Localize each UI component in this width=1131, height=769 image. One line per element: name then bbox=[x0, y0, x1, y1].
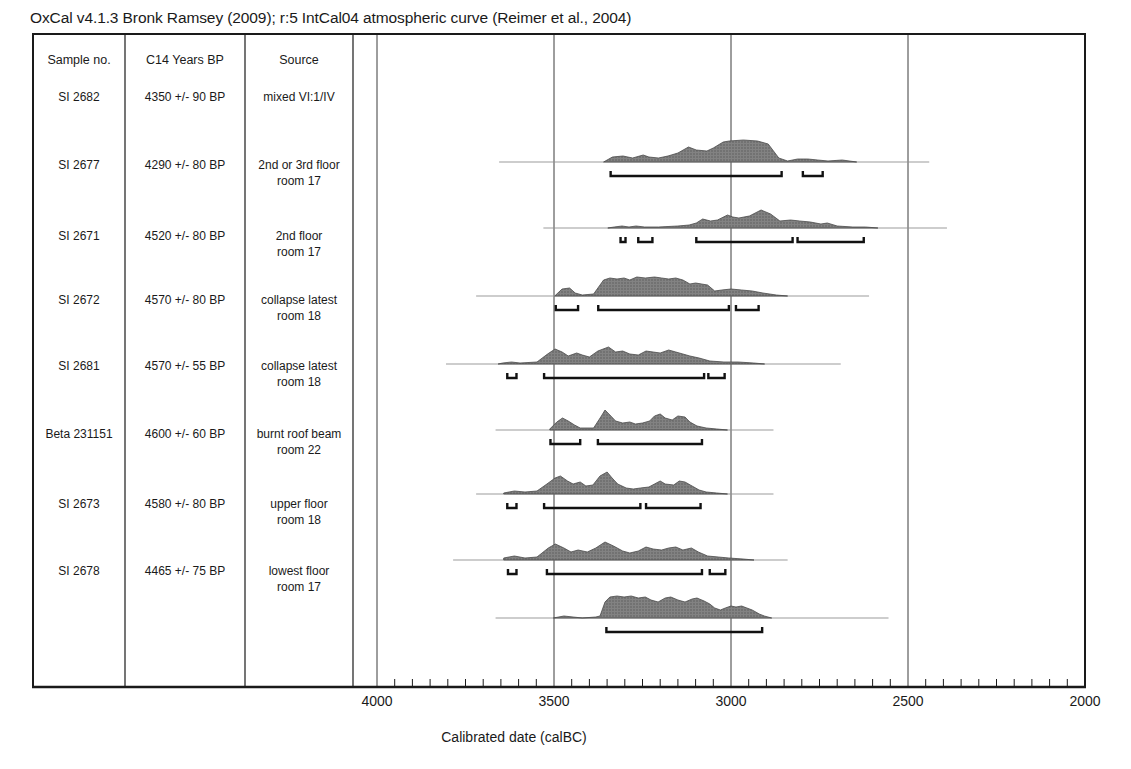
sample-label: Beta 231151 bbox=[45, 427, 112, 442]
source-label: room 17 bbox=[277, 580, 321, 595]
probability-distribution bbox=[504, 472, 728, 494]
range-bracket bbox=[507, 373, 516, 378]
range-bracket bbox=[606, 627, 762, 632]
table-header-sample: Sample no. bbox=[47, 53, 110, 67]
x-tick-label: 3000 bbox=[715, 693, 746, 709]
c14-label: 4290 +/- 80 BP bbox=[145, 158, 225, 173]
sample-label: SI 2682 bbox=[58, 90, 99, 105]
range-bracket bbox=[556, 305, 578, 310]
x-tick-label: 3500 bbox=[538, 693, 569, 709]
source-label: burnt roof beam bbox=[257, 427, 342, 442]
range-bracket bbox=[646, 503, 701, 508]
c14-label: 4520 +/- 80 BP bbox=[145, 229, 225, 244]
range-bracket bbox=[598, 305, 729, 310]
probability-distribution bbox=[504, 542, 754, 560]
range-bracket bbox=[708, 373, 724, 378]
probability-distribution bbox=[604, 140, 857, 162]
c14-label: 4465 +/- 75 BP bbox=[145, 564, 225, 579]
range-bracket bbox=[803, 171, 823, 176]
range-bracket bbox=[547, 569, 702, 574]
source-label: room 22 bbox=[277, 443, 321, 458]
c14-label: 4570 +/- 80 BP bbox=[145, 293, 225, 308]
source-label: collapse latest bbox=[261, 293, 337, 308]
probability-distribution bbox=[555, 277, 788, 296]
x-axis-title: Calibrated date (calBC) bbox=[441, 729, 587, 745]
c14-label: 4600 +/- 60 BP bbox=[145, 427, 225, 442]
sample-label: SI 2671 bbox=[58, 229, 99, 244]
source-label: mixed VI:1/IV bbox=[263, 90, 334, 105]
sample-label: SI 2672 bbox=[58, 293, 99, 308]
x-tick-label: 2000 bbox=[1069, 693, 1100, 709]
x-tick-label: 2500 bbox=[892, 693, 923, 709]
range-bracket bbox=[544, 503, 640, 508]
range-bracket bbox=[710, 569, 726, 574]
sample-label: SI 2677 bbox=[58, 158, 99, 173]
sample-label: SI 2681 bbox=[58, 359, 99, 374]
oxcal-figure: OxCal v4.1.3 Bronk Ramsey (2009); r:5 In… bbox=[0, 0, 1131, 769]
range-bracket bbox=[507, 503, 516, 508]
table-header-source: Source bbox=[279, 53, 319, 67]
range-bracket bbox=[611, 171, 782, 176]
source-label: room 18 bbox=[277, 309, 321, 324]
table-header-c14: C14 Years BP bbox=[146, 53, 224, 67]
range-bracket bbox=[736, 305, 759, 310]
source-label: room 18 bbox=[277, 375, 321, 390]
sample-label: SI 2678 bbox=[58, 564, 99, 579]
range-bracket bbox=[550, 439, 580, 444]
probability-distribution bbox=[608, 210, 878, 228]
probability-distribution bbox=[498, 347, 764, 364]
range-bracket bbox=[696, 237, 792, 242]
source-label: room 18 bbox=[277, 513, 321, 528]
source-label: room 17 bbox=[277, 245, 321, 260]
c14-label: 4350 +/- 90 BP bbox=[145, 90, 225, 105]
c14-label: 4580 +/- 80 BP bbox=[145, 497, 225, 512]
range-bracket bbox=[621, 237, 626, 242]
range-bracket bbox=[638, 237, 652, 242]
source-label: 2nd floor bbox=[276, 229, 323, 244]
c14-label: 4570 +/- 55 BP bbox=[145, 359, 225, 374]
calibration-plot bbox=[0, 0, 1131, 769]
range-bracket bbox=[544, 373, 704, 378]
sample-label: SI 2673 bbox=[58, 497, 99, 512]
x-tick-label: 4000 bbox=[361, 693, 392, 709]
probability-distribution bbox=[553, 596, 771, 618]
probability-distribution bbox=[550, 410, 728, 430]
range-bracket bbox=[798, 237, 864, 242]
source-label: room 17 bbox=[277, 174, 321, 189]
range-bracket bbox=[508, 569, 516, 574]
source-label: lowest floor bbox=[269, 564, 330, 579]
range-bracket bbox=[598, 439, 702, 444]
source-label: collapse latest bbox=[261, 359, 337, 374]
source-label: upper floor bbox=[270, 497, 327, 512]
source-label: 2nd or 3rd floor bbox=[258, 158, 339, 173]
